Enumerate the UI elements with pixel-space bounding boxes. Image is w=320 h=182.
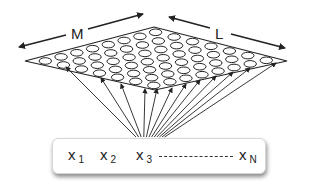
map-node [186,38,198,45]
map-node [107,58,119,65]
map-node [73,58,85,65]
input-xn: xN [239,147,257,162]
map-node [130,78,142,85]
map-node [55,54,67,61]
connection-arrow [146,89,157,137]
connection-arrow [144,89,145,137]
map-node [194,63,206,70]
map-node [168,34,180,41]
map-node [93,70,105,77]
map-node [91,62,103,69]
map-node [148,82,160,89]
map-node [86,45,98,52]
map-node [223,48,235,55]
map-node [139,50,151,57]
input-vector-box: x1 x2 x3 xN [52,138,266,174]
map-node [173,51,185,58]
map-node [111,74,123,81]
map-node [125,62,137,69]
map-node [157,55,169,62]
l-dimension-label: L [213,26,225,41]
m-dimension-label: M [69,26,86,41]
map-node [105,50,117,57]
map-node [226,56,238,63]
map-node [242,52,254,59]
map-node [123,54,135,61]
map-node [152,38,164,45]
map-node [228,64,240,71]
map-node [118,37,130,44]
map-node [162,71,174,78]
map-node [207,51,219,58]
map-node [164,79,176,86]
map-node [39,58,51,65]
map-node [127,70,139,77]
map-node [134,33,146,40]
map-node [143,67,155,74]
connection-arrow [121,84,141,137]
map-node [189,47,201,54]
map-node [191,55,203,62]
map-node [170,42,182,49]
map-node [149,29,161,36]
map-node [155,46,167,53]
map-node [141,58,153,65]
map-node [102,41,114,48]
map-node [136,42,148,49]
input-x2: x2 [100,147,116,162]
map-node [212,68,224,75]
map-node [120,46,132,53]
map-node [159,63,171,70]
input-x3: x3 [136,147,152,162]
map-node [244,61,256,68]
map-node [205,43,217,50]
map-node [57,62,69,69]
dashed-ellipsis [159,156,233,157]
map-node [71,50,83,57]
map-node [180,75,192,82]
map-node [175,59,187,66]
map-node [260,57,272,64]
map-node [75,66,87,73]
map-node [89,54,101,61]
map-node [178,67,190,74]
input-x1: x1 [68,147,84,162]
map-node [109,66,121,73]
map-node [196,71,208,78]
map-node [146,74,158,81]
map-node [210,60,222,67]
